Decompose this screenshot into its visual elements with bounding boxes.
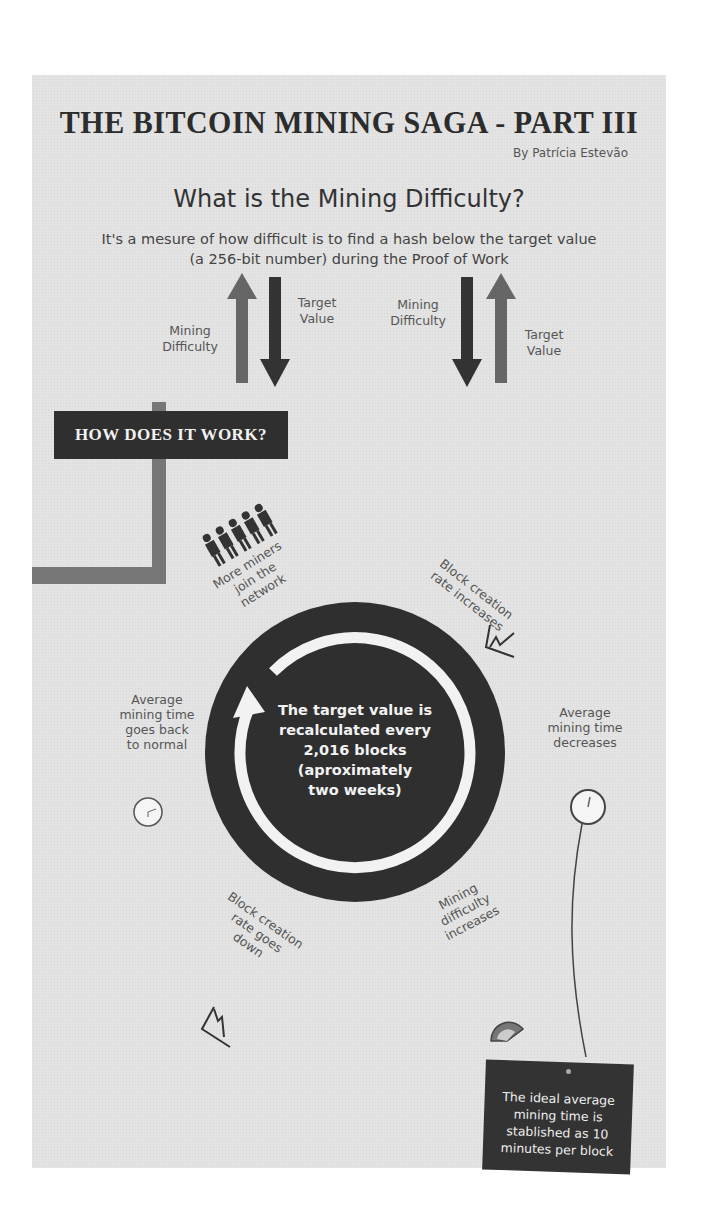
right-down-label: Mining Difficulty <box>378 297 458 329</box>
arrow-up-icon <box>486 273 516 383</box>
definition-text: It's a mesure of how difficult is to fin… <box>32 229 666 269</box>
author-byline: By Patrícia Estevão <box>513 146 628 160</box>
clock-with-string <box>568 787 678 1057</box>
arrow-down-icon <box>452 277 482 387</box>
left-down-label: Target Value <box>287 295 347 327</box>
section-question: What is the Mining Difficulty? <box>32 185 666 213</box>
signpost-base <box>32 567 166 584</box>
gauge-icon <box>487 1015 527 1045</box>
step-time-decreases: Average mining time decreases <box>540 705 630 750</box>
left-up-label: Mining Difficulty <box>150 323 230 355</box>
ideal-time-note: The ideal average mining time is stablis… <box>482 1059 634 1174</box>
falling-chart-icon <box>200 1005 240 1051</box>
clock-icon <box>131 795 165 829</box>
how-it-works-heading: HOW DOES IT WORK? <box>54 411 288 459</box>
infographic-title: THE BITCOIN MINING SAGA - PART III <box>32 104 666 140</box>
arrow-up-icon <box>227 273 257 383</box>
pin-icon <box>566 1069 571 1074</box>
arrow-down-icon <box>260 277 290 387</box>
step-time-normal: Average mining time goes back to normal <box>107 692 207 752</box>
infographic-panel: THE BITCOIN MINING SAGA - PART III By Pa… <box>32 75 666 1168</box>
cycle-center-text: The target value is recalculated every 2… <box>255 700 455 800</box>
right-up-label: Target Value <box>514 327 574 359</box>
